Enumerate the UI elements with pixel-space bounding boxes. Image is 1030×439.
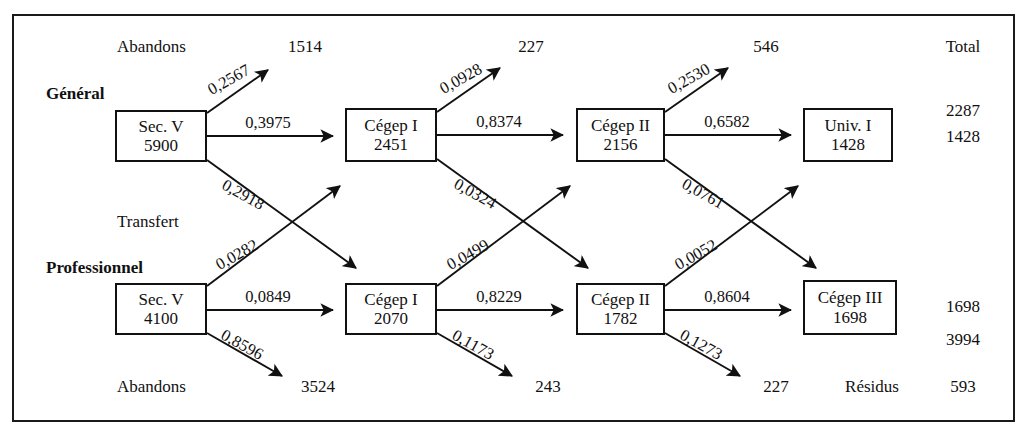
node-label: Sec. V bbox=[138, 117, 183, 136]
node-label: Cégep II bbox=[591, 116, 650, 135]
label-residus: Résidus bbox=[845, 377, 899, 397]
total-value-2287: 2287 bbox=[946, 101, 980, 121]
label-general: Général bbox=[46, 84, 105, 104]
node-cegep1-professionnel[interactable]: Cégep I 2070 bbox=[345, 283, 437, 335]
node-label: Cégep III bbox=[818, 288, 883, 307]
node-value: 2156 bbox=[604, 135, 638, 154]
node-sec5-professionnel[interactable]: Sec. V 4100 bbox=[115, 283, 207, 335]
prob-pro-c1-cegep2: 0,8229 bbox=[476, 287, 521, 307]
node-label: Sec. V bbox=[138, 290, 183, 309]
prob-gen-sec5-cegep1: 0,3975 bbox=[245, 113, 290, 133]
node-value: 4100 bbox=[144, 309, 178, 328]
label-professionnel: Professionnel bbox=[46, 258, 143, 278]
prob-gen-c2-univ1: 0,6582 bbox=[704, 112, 749, 132]
node-label: Cégep I bbox=[364, 290, 417, 309]
label-transfert: Transfert bbox=[117, 212, 179, 232]
node-value: 1782 bbox=[604, 309, 638, 328]
label-abandons-top: Abandons bbox=[117, 37, 186, 57]
node-cegep1-general[interactable]: Cégep I 2451 bbox=[345, 108, 437, 162]
prob-pro-c2-cegep3: 0,8604 bbox=[704, 287, 749, 307]
exit-value-abandons-pro-3: 227 bbox=[763, 377, 789, 397]
total-value-1428: 1428 bbox=[946, 127, 980, 147]
node-value: 2451 bbox=[374, 135, 408, 154]
prob-gen-c1-cegep2: 0,8374 bbox=[476, 112, 521, 132]
node-univ1[interactable]: Univ. I 1428 bbox=[803, 108, 893, 162]
label-abandons-bottom: Abandons bbox=[117, 377, 186, 397]
exit-value-abandons-gen-2: 227 bbox=[518, 37, 544, 57]
node-cegep3[interactable]: Cégep III 1698 bbox=[803, 280, 897, 335]
node-sec5-general[interactable]: Sec. V 5900 bbox=[115, 110, 207, 162]
total-value-3994: 3994 bbox=[946, 330, 980, 350]
residus-value: 593 bbox=[950, 377, 976, 397]
node-value: 1698 bbox=[833, 308, 867, 327]
exit-value-abandons-pro-1: 3524 bbox=[301, 377, 335, 397]
prob-pro-sec5-cegep1: 0,0849 bbox=[245, 287, 290, 307]
node-label: Cégep II bbox=[591, 290, 650, 309]
node-value: 2070 bbox=[374, 309, 408, 328]
node-value: 5900 bbox=[144, 136, 178, 155]
node-cegep2-general[interactable]: Cégep II 2156 bbox=[576, 108, 665, 162]
exit-value-abandons-gen-3: 546 bbox=[753, 37, 779, 57]
flow-diagram-page: Sec. V 5900 Cégep I 2451 Cégep II 2156 U… bbox=[0, 0, 1030, 439]
node-value: 1428 bbox=[831, 135, 865, 154]
total-value-1698: 1698 bbox=[946, 297, 980, 317]
totals-header: Total bbox=[946, 37, 981, 57]
node-label: Univ. I bbox=[824, 116, 871, 135]
exit-value-abandons-gen-1: 1514 bbox=[288, 37, 322, 57]
node-label: Cégep I bbox=[364, 116, 417, 135]
exit-value-abandons-pro-2: 243 bbox=[535, 377, 561, 397]
node-cegep2-professionnel[interactable]: Cégep II 1782 bbox=[576, 283, 665, 335]
